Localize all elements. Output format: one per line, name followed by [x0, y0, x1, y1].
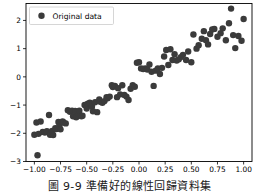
plot-area-background: [26, 4, 252, 162]
data-point: [34, 152, 40, 158]
data-point: [125, 97, 131, 103]
data-point: [167, 46, 173, 52]
data-point: [185, 48, 191, 54]
data-point: [50, 132, 56, 138]
data-point: [159, 65, 165, 71]
legend-entry-label: Original data: [53, 12, 102, 21]
x-tick-label: 0.75: [209, 165, 226, 174]
x-tick-label: −0.50: [75, 165, 98, 174]
data-point: [157, 71, 163, 77]
x-tick-label: 0.50: [183, 165, 200, 174]
data-point: [107, 93, 113, 99]
data-point: [190, 31, 196, 37]
data-point: [171, 51, 177, 57]
y-tick-label: 0: [16, 73, 21, 82]
x-tick-label: −0.75: [49, 165, 72, 174]
scatter-plot: −1.00−0.75−0.50−0.250.000.250.500.751.00…: [0, 0, 259, 194]
x-tick-label: 1.00: [235, 165, 252, 174]
data-point: [46, 112, 52, 118]
x-tick-label: −0.25: [102, 165, 125, 174]
data-point: [37, 118, 43, 124]
data-point: [195, 42, 201, 48]
y-tick-label: −2: [10, 129, 21, 138]
data-point: [201, 28, 207, 34]
legend-marker-icon: [38, 13, 44, 19]
data-point: [136, 59, 142, 65]
y-tick-label: −3: [10, 157, 21, 166]
data-point: [165, 62, 171, 68]
data-point: [63, 120, 69, 126]
figure-container: −1.00−0.75−0.50−0.250.000.250.500.751.00…: [0, 0, 259, 194]
x-tick-label: 0.25: [157, 165, 174, 174]
data-point: [205, 41, 211, 47]
data-point: [211, 26, 217, 32]
legend: Original data: [30, 7, 114, 25]
data-point: [188, 59, 194, 65]
x-tick-label: −1.00: [23, 165, 46, 174]
data-point: [161, 53, 167, 59]
data-point: [79, 113, 85, 119]
data-point: [220, 25, 226, 31]
data-point: [226, 20, 232, 26]
data-point: [223, 37, 229, 43]
data-point: [94, 109, 100, 115]
data-point: [228, 5, 234, 11]
figure-caption: 圖 9-9 準備好的線性回歸資料集: [0, 179, 259, 194]
data-point: [240, 16, 246, 22]
data-point: [57, 126, 63, 132]
data-point: [232, 45, 238, 51]
y-tick-label: −1: [10, 101, 21, 110]
data-point: [146, 61, 152, 67]
data-point: [132, 84, 138, 90]
y-tick-label: 1: [16, 44, 21, 53]
y-tick-label: 2: [16, 16, 21, 25]
data-point: [150, 83, 156, 89]
data-point: [119, 82, 125, 88]
x-tick-label: 0.00: [131, 165, 148, 174]
data-point: [238, 38, 244, 44]
